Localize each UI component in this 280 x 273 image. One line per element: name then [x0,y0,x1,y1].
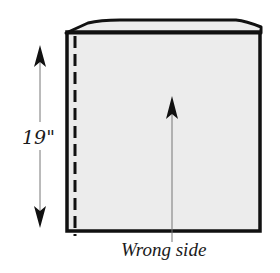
caption-wrong-side: Wrong side [121,240,206,259]
dimension-label: 19" [22,127,55,148]
fabric-panel [67,32,260,231]
